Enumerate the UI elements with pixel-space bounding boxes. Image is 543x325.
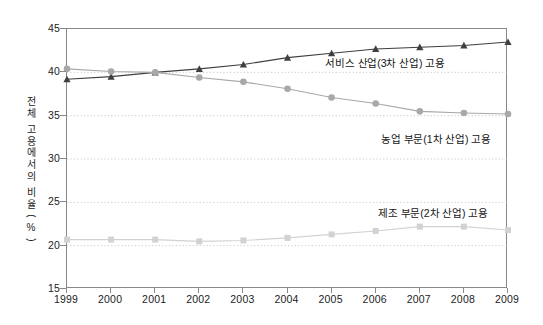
square-marker xyxy=(64,237,70,243)
x-axis-tick-mark xyxy=(419,288,420,293)
y-axis-tick-mark xyxy=(60,71,66,72)
y-axis-tick-label: 40 xyxy=(48,65,60,77)
series-2 xyxy=(64,224,511,245)
y-axis-tick-mark xyxy=(60,115,66,116)
y-axis-tick-label: 30 xyxy=(48,152,60,164)
series-label-agriculture: 농업 부문(1차 산업) 고용 xyxy=(381,131,491,146)
y-axis-tick-mark xyxy=(60,201,66,202)
x-axis-tick-label: 2009 xyxy=(495,293,519,305)
line-chart: 전체 고용에서의 비율(%) 15202530354045 1999200020… xyxy=(0,0,543,325)
x-axis-tick-label: 2008 xyxy=(451,293,475,305)
square-marker xyxy=(505,227,511,233)
circle-marker xyxy=(417,108,424,115)
x-axis-tick-mark xyxy=(66,288,67,293)
square-marker xyxy=(285,235,291,241)
series-label-services: 서비스 산업(3차 산업) 고용 xyxy=(325,55,445,70)
y-axis-tick-label: 20 xyxy=(48,239,60,251)
x-axis-tick-mark xyxy=(110,288,111,293)
x-axis-tick-label: 2007 xyxy=(407,293,431,305)
y-axis-tick-label: 35 xyxy=(48,109,60,121)
x-axis-tick-label: 2002 xyxy=(186,293,210,305)
x-axis-tick-mark xyxy=(375,288,376,293)
circle-marker xyxy=(505,111,512,118)
circle-marker xyxy=(372,100,379,107)
circle-marker xyxy=(108,68,115,75)
x-axis-tick-labels: 1999200020012002200320042005200620072008… xyxy=(66,293,507,311)
square-marker xyxy=(152,237,158,243)
x-axis-tick-mark xyxy=(287,288,288,293)
x-axis-tick-mark xyxy=(154,288,155,293)
x-axis-tick-label: 1999 xyxy=(54,293,78,305)
y-axis-tick-mark xyxy=(60,245,66,246)
series-1 xyxy=(64,66,512,118)
x-axis-tick-label: 2000 xyxy=(98,293,122,305)
x-axis-tick-label: 2003 xyxy=(230,293,254,305)
x-axis-tick-mark xyxy=(331,288,332,293)
x-axis-tick-mark xyxy=(242,288,243,293)
y-axis-tick-mark xyxy=(60,28,66,29)
square-marker xyxy=(329,231,335,237)
x-axis-tick-label: 2005 xyxy=(319,293,343,305)
y-axis-tick-labels: 15202530354045 xyxy=(34,28,60,288)
square-marker xyxy=(108,237,114,243)
circle-marker xyxy=(328,94,335,101)
y-axis-tick-label: 25 xyxy=(48,195,60,207)
circle-marker xyxy=(240,79,247,86)
x-axis-tick-mark xyxy=(463,288,464,293)
x-axis-tick-mark xyxy=(198,288,199,293)
circle-marker xyxy=(284,86,291,93)
square-marker xyxy=(196,238,202,244)
circle-marker xyxy=(152,69,159,76)
series-label-manufacturing: 제조 부문(2차 산업) 고용 xyxy=(378,205,488,220)
y-axis-tick-label: 45 xyxy=(48,22,60,34)
x-axis-tick-label: 2001 xyxy=(142,293,166,305)
square-marker xyxy=(461,224,467,230)
x-axis-tick-label: 2006 xyxy=(363,293,387,305)
x-axis-tick-mark xyxy=(507,288,508,293)
circle-marker xyxy=(196,74,203,81)
square-marker xyxy=(417,224,423,230)
square-marker xyxy=(373,228,379,234)
y-axis-tick-mark xyxy=(60,158,66,159)
square-marker xyxy=(240,237,246,243)
x-axis-tick-label: 2004 xyxy=(274,293,298,305)
circle-marker xyxy=(461,110,468,117)
